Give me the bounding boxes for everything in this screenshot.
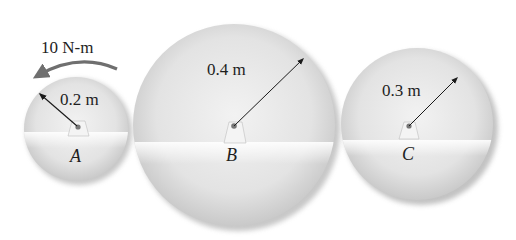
disc-label-a: A <box>70 146 81 167</box>
moment-label: 10 N-m <box>41 38 93 58</box>
radius-label-a: 0.2 m <box>60 90 99 110</box>
disc-b <box>130 24 340 231</box>
moment-arrow-icon <box>37 62 117 76</box>
diagram-canvas <box>0 0 516 240</box>
radius-label-b: 0.4 m <box>207 60 246 80</box>
disc-label-b: B <box>226 145 237 166</box>
radius-label-c: 0.3 m <box>382 81 421 101</box>
disc-label-c: C <box>402 144 414 165</box>
disc-c <box>340 48 500 205</box>
